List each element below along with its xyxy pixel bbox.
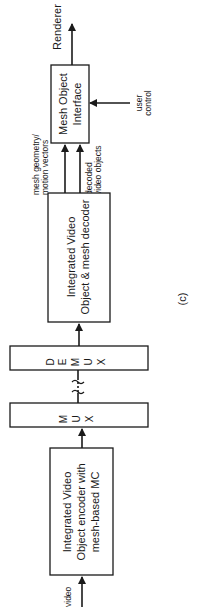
- mux-block: M U X: [10, 403, 148, 427]
- mux-letter-u: U: [71, 415, 82, 422]
- diagram-canvas: Renderer Mesh Object Interface user cont…: [0, 0, 200, 607]
- mesh-geometry-label-2: motion vectors: [40, 140, 50, 195]
- demux-letter-m: M: [70, 358, 81, 366]
- encoder-line-3: mesh-based MC: [89, 472, 101, 553]
- demux-letter-e: E: [57, 358, 68, 365]
- mux-letter-x: X: [84, 415, 95, 422]
- interface-line-2: Interface: [71, 83, 83, 126]
- renderer-label: Renderer: [51, 4, 63, 50]
- mux-letter-m: M: [58, 415, 69, 423]
- demux-letter-d: D: [45, 358, 56, 365]
- decoder-line-2: Object & mesh decoder: [79, 199, 91, 314]
- decoder-block: Integrated Video Object & mesh decoder: [48, 193, 110, 322]
- decoder-line-1: Integrated Video: [65, 217, 77, 298]
- channel-break: [72, 370, 84, 403]
- video-input-label: video: [63, 586, 73, 607]
- demux-letter-u: U: [83, 358, 94, 365]
- encoder-line-1: Integrated Video: [61, 472, 73, 553]
- decoded-objects-label-2: video objects: [93, 145, 103, 195]
- figure-caption: (c): [176, 293, 188, 306]
- mesh-object-interface-block: Mesh Object Interface: [51, 65, 89, 143]
- user-control-label-2: control: [143, 90, 153, 116]
- demux-block: D E M U X: [10, 346, 148, 370]
- demux-letter-x: X: [96, 358, 107, 365]
- encoder-line-2: Object encoder with: [75, 463, 87, 560]
- encoder-block: Integrated Video Object encoder with mes…: [50, 448, 113, 575]
- interface-line-1: Mesh Object: [57, 73, 69, 135]
